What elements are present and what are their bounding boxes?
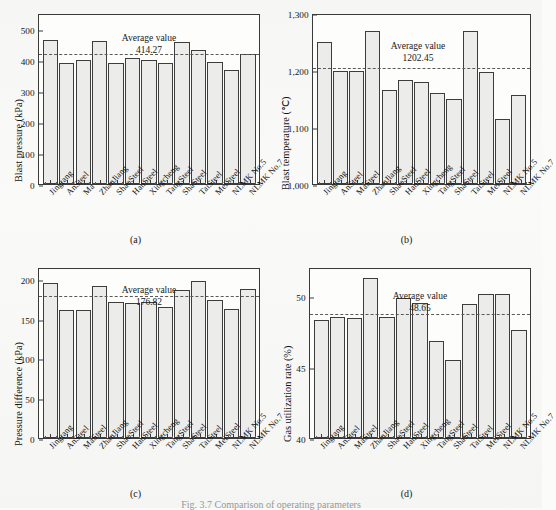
plot-frame-c: Average value176.82050100150200: [38, 268, 260, 439]
y-tick-label: 200: [21, 119, 39, 129]
y-tick-label: 50: [25, 395, 39, 405]
y-tick-label: 300: [21, 88, 39, 98]
y-tick-label: 150: [21, 316, 39, 326]
y-tick-mark: [310, 297, 314, 298]
y-tick-mark: [313, 72, 317, 73]
panel-label-b: (b): [271, 234, 542, 245]
bar: [330, 317, 345, 438]
bar: [314, 320, 329, 438]
bar: [347, 318, 362, 438]
y-tick-label: 1,200: [288, 67, 313, 77]
bar: [59, 310, 74, 438]
x-minor-tick: [45, 436, 46, 438]
bar: [317, 42, 332, 185]
y-tick-label: 500: [21, 26, 39, 36]
chart-panel-d: Gas utilization rate (%) Average value48…: [271, 254, 542, 508]
y-tick-label: 400: [21, 57, 39, 67]
x-tick-mark: [50, 434, 51, 438]
y-tick-mark: [39, 320, 43, 321]
bar: [76, 60, 91, 184]
bar: [479, 72, 494, 184]
bar: [224, 309, 239, 438]
bar: [174, 290, 189, 438]
y-tick-label: 1,300: [288, 10, 313, 20]
average-value-number: 1202.45: [368, 53, 468, 65]
y-axis-label-a: Blast pressure (kPa): [13, 99, 24, 182]
bar: [59, 63, 74, 184]
y-tick-mark: [313, 186, 317, 187]
panel-label-c: (c): [0, 488, 271, 499]
y-tick-label: 1,100: [288, 124, 313, 134]
y-tick-label: 100: [21, 355, 39, 365]
y-axis-label-d: Gas utilization rate (%): [282, 346, 293, 442]
panel-label-a: (a): [0, 234, 271, 245]
plot-frame-b: Average value1202.451,0001,1001,2001,300: [312, 14, 531, 185]
y-tick-mark: [39, 92, 43, 93]
y-tick-label: 40: [296, 435, 310, 445]
y-tick-mark: [39, 400, 43, 401]
average-value-label: Average value: [368, 41, 468, 53]
y-tick-label: 200: [21, 276, 39, 286]
bar: [43, 283, 58, 438]
average-annotation-c: Average value176.82: [99, 285, 199, 308]
chart-panel-b: Blast temperature (℃) Average value1202.…: [271, 0, 542, 254]
bar: [207, 300, 222, 438]
x-tick-mark: [50, 180, 51, 184]
y-tick-mark: [39, 440, 43, 441]
bar: [349, 71, 364, 184]
bar: [92, 286, 107, 438]
x-minor-tick: [319, 182, 320, 184]
average-annotation-b: Average value1202.45: [368, 41, 468, 64]
y-tick-label: 100: [21, 150, 39, 160]
y-tick-mark: [39, 30, 43, 31]
y-tick-mark: [39, 360, 43, 361]
chart-panel-c: Pressure difference (kPa) Average value1…: [0, 254, 271, 508]
average-value-label: Average value: [99, 285, 199, 297]
y-tick-mark: [313, 15, 317, 16]
x-minor-tick: [316, 436, 317, 438]
bar: [412, 303, 427, 438]
bar: [495, 294, 510, 438]
y-tick-mark: [39, 61, 43, 62]
average-annotation-d: Average value48.65: [370, 291, 470, 314]
bar: [191, 50, 206, 184]
plot-frame-a: Average value414.270100200300400500: [38, 14, 260, 185]
average-value-label: Average value: [370, 291, 470, 303]
y-tick-label: 50: [296, 293, 310, 303]
x-tick-mark: [321, 434, 322, 438]
y-tick-label: 0: [30, 435, 39, 445]
x-tick-mark: [100, 180, 101, 184]
y-tick-mark: [313, 129, 317, 130]
bar: [141, 302, 156, 438]
average-value-number: 176.82: [99, 297, 199, 309]
bar: [462, 304, 477, 438]
bar: [224, 70, 239, 184]
average-annotation-a: Average value414.27: [99, 33, 199, 56]
y-tick-mark: [39, 186, 43, 187]
y-tick-mark: [39, 280, 43, 281]
y-tick-mark: [39, 123, 43, 124]
bar: [141, 60, 156, 184]
y-tick-label: 45: [296, 364, 310, 374]
average-value-number: 414.27: [99, 45, 199, 57]
average-value-number: 48.65: [370, 303, 470, 315]
bar: [174, 42, 189, 184]
bar: [207, 62, 222, 184]
chart-panel-a: Blast pressure (kPa) Average value414.27…: [0, 0, 271, 254]
bar: [396, 298, 411, 438]
bar: [478, 294, 493, 438]
y-tick-label: 1,000: [288, 181, 313, 191]
panel-label-d: (d): [271, 488, 542, 499]
y-tick-mark: [310, 368, 314, 369]
x-minor-tick: [95, 182, 96, 184]
bar: [92, 41, 107, 184]
average-value-label: Average value: [99, 33, 199, 45]
y-axis-label-b: Blast temperature (℃): [279, 97, 291, 190]
figure-caption: Fig. 3.7 Comparison of operating paramet…: [0, 499, 542, 510]
y-tick-mark: [310, 440, 314, 441]
bar: [240, 289, 255, 438]
x-tick-mark: [324, 180, 325, 184]
average-line-b: [313, 68, 530, 69]
